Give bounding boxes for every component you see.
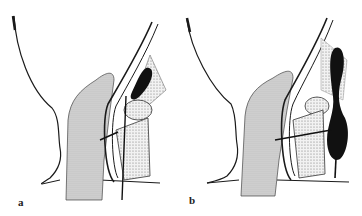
panel-label-a: a <box>18 196 24 208</box>
panel-a-illustration: a <box>0 0 181 216</box>
panel-b-illustration: b <box>181 0 362 216</box>
panel-label-b: b <box>189 194 195 206</box>
anatomy-diagram-b <box>181 0 362 216</box>
anatomy-diagram-a <box>0 0 181 216</box>
